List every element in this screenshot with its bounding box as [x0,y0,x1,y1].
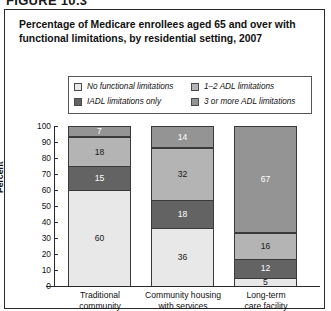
legend-item-no-functional-limitations: No functional limitations [74,82,173,91]
legend-item-iadl-limitations-only: IADL limitations only [74,97,161,106]
bar-segment: 32 [151,148,214,199]
y-axis-tick-label: 50 [42,202,54,210]
y-axis-tick-label: 80 [42,154,54,162]
bar-segment: 7 [68,126,131,137]
bar-segment: 15 [68,166,131,190]
bar-segment: 18 [151,200,214,229]
y-axis-tick-label: 60 [42,186,54,194]
legend-swatch-icon [191,98,199,106]
x-axis-category-label-line: care facility [211,301,321,311]
figure-title-line-1: Percentage of Medicare enrollees aged 65… [19,18,315,32]
bar-segment-value: 32 [178,170,188,179]
bar-segment-value: 67 [261,175,271,184]
bar-segment: 14 [151,126,214,148]
bar-segment-value: 18 [95,148,105,157]
bar-segment-value: 18 [178,210,188,219]
x-axis-line [46,286,320,287]
bar-segment: 67 [234,126,297,233]
bar-segment: 18 [68,137,131,166]
bar-segment: 12 [234,259,297,278]
stacked-bar: 6716125 [234,126,297,286]
y-axis-tick-label: 10 [42,266,54,274]
bar-segment-value: 16 [261,242,271,251]
plot-area: 7181560143218366716125 [54,126,312,286]
y-axis-tick-label: 90 [42,138,54,146]
stacked-bar: 7181560 [68,126,131,286]
y-axis-tick-label: 30 [42,234,54,242]
stacked-bar: 14321836 [151,126,214,286]
bar-segment-value: 15 [95,174,105,183]
bar-segment-value: 60 [95,234,105,243]
bar-segment-value: 7 [97,127,102,136]
legend-item-label: 1–2 ADL limitations [204,82,274,91]
legend-swatch-icon [191,83,199,91]
chart-legend: No functional limitations 1–2 ADL limita… [68,76,312,114]
y-axis-tick-label: 100 [37,122,54,130]
bar-segment-value: 14 [178,133,188,142]
y-axis-tick-label: 0 [46,282,54,290]
y-axis-tick-mark [54,286,58,287]
x-axis-category-label-line: Long-term [211,290,321,301]
y-axis-tick-label: 20 [42,250,54,258]
bar-segment: 60 [68,190,131,286]
legend-swatch-icon [74,98,82,106]
legend-item-label: 3 or more ADL limitations [204,97,295,106]
figure-title-line-2: functional limitations, by residential s… [19,32,315,46]
y-axis-tick-label: 70 [42,170,54,178]
bar-segment-value: 36 [178,253,188,262]
legend-item-label: No functional limitations [87,82,173,91]
y-axis-label: Percent [0,161,5,193]
figure-title: Percentage of Medicare enrollees aged 65… [19,18,315,45]
bar-segment-value: 5 [263,278,268,287]
legend-swatch-icon [74,83,82,91]
x-axis-category-label: Long-termcare facility [211,290,321,311]
legend-item-3-or-more-adl-limitations: 3 or more ADL limitations [191,97,295,106]
bar-segment: 16 [234,233,297,259]
figure-container: Percentage of Medicare enrollees aged 65… [4,9,325,309]
legend-item-1-2-adl-limitations: 1–2 ADL limitations [191,82,274,91]
bar-segment: 5 [234,278,297,286]
y-axis-tick-label: 40 [42,218,54,226]
legend-item-label: IADL limitations only [87,97,161,106]
bar-segment-value: 12 [261,264,271,273]
bar-segment: 36 [151,228,214,286]
figure-number: FIGURE 10.3 [6,0,87,8]
